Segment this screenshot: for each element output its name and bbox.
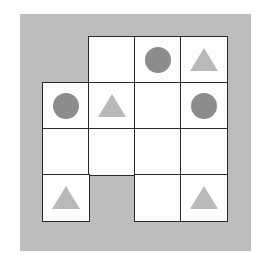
grid-cell-r2-c2: [134, 128, 182, 176]
grid-cell-r1-c0: [42, 82, 90, 130]
grid-cell-r3-c2: [134, 174, 182, 222]
triangle-icon: [52, 186, 80, 209]
grid-cell-r1-c2: [134, 82, 182, 130]
triangle-icon: [98, 94, 126, 117]
grid-cell-r1-c1: [88, 82, 136, 130]
circle-icon: [191, 93, 217, 119]
grid-cell-r0-c1: [88, 36, 136, 84]
circle-icon: [53, 93, 79, 119]
triangle-icon: [190, 186, 218, 209]
grid-cell-r3-c0: [42, 174, 90, 222]
grid-cell-r1-c3: [180, 82, 228, 130]
grid-cell-r2-c1: [88, 128, 136, 176]
grid-cell-r3-c3: [180, 174, 228, 222]
grid-cell-r2-c3: [180, 128, 228, 176]
grid-cell-r0-c3: [180, 36, 228, 84]
circle-icon: [145, 47, 171, 73]
triangle-icon: [190, 48, 218, 71]
grid-cell-r2-c0: [42, 128, 90, 176]
grid-cell-r0-c2: [134, 36, 182, 84]
